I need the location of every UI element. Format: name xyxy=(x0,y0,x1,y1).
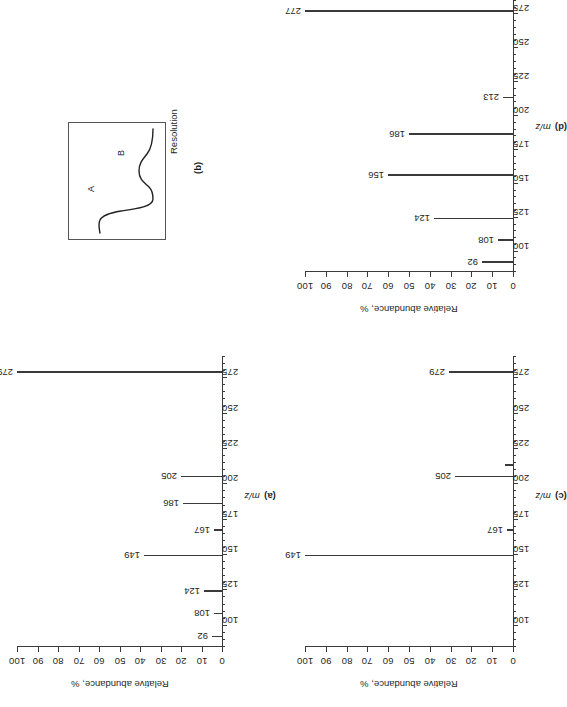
x-axis-tick-label: 150 xyxy=(513,544,529,555)
x-axis-minor-tick xyxy=(513,0,516,1)
peak-label: 205 xyxy=(161,471,177,482)
x-axis-minor-tick xyxy=(513,203,516,204)
y-axis-tick-label: 40 xyxy=(424,281,435,292)
y-axis-tick xyxy=(326,272,327,277)
y-axis-tick-label: 0 xyxy=(510,281,515,292)
spectrum-peak xyxy=(482,261,513,263)
x-axis-minor-tick xyxy=(513,74,516,75)
spectrum-peak xyxy=(183,503,222,505)
panel-caption: (a) xyxy=(264,491,276,502)
x-axis-tick-label: 175 xyxy=(513,139,529,150)
resolution-frame xyxy=(68,122,166,240)
x-axis-minor-tick xyxy=(513,490,516,491)
x-axis-tick-label: 225 xyxy=(513,438,529,449)
y-axis-tick xyxy=(451,647,452,652)
y-axis-tick xyxy=(58,647,59,652)
x-axis-tick-label: 100 xyxy=(513,615,529,626)
x-axis-minor-tick xyxy=(513,176,516,177)
y-axis-tick-label: 50 xyxy=(404,656,415,667)
y-axis-tick-label: 60 xyxy=(383,281,394,292)
y-axis-tick xyxy=(367,647,368,652)
y-axis-tick xyxy=(513,272,514,277)
x-axis-minor-tick xyxy=(222,618,225,619)
resolution-curve-b-label: B xyxy=(116,150,126,156)
y-axis-tick-label: 20 xyxy=(466,656,477,667)
peak-label: 156 xyxy=(368,169,384,180)
x-axis-title: m/z xyxy=(535,122,550,133)
x-axis-minor-tick xyxy=(513,455,516,456)
x-axis-minor-tick xyxy=(513,618,516,619)
x-axis-minor-tick xyxy=(513,469,516,470)
x-axis-tick-label: 225 xyxy=(513,71,529,82)
x-axis-minor-tick xyxy=(513,434,516,435)
y-axis-title: Relative abundance, % xyxy=(71,679,169,690)
x-axis-minor-tick xyxy=(222,632,225,633)
x-axis-minor-tick xyxy=(513,163,516,164)
spectrum-peak xyxy=(214,613,222,615)
x-axis-minor-tick xyxy=(513,611,516,612)
x-axis-minor-tick xyxy=(513,476,516,477)
x-axis-minor-tick xyxy=(513,190,516,191)
x-axis-minor-tick xyxy=(513,391,516,392)
spectrum-peak xyxy=(503,97,513,99)
x-axis-minor-tick xyxy=(513,568,516,569)
y-axis-tick xyxy=(140,647,141,652)
x-axis-tick-label: 175 xyxy=(222,509,238,520)
x-axis-title: m/z xyxy=(244,491,259,502)
x-axis-tick-label: 275 xyxy=(513,367,529,378)
peak-label: 124 xyxy=(184,585,200,596)
x-axis-minor-tick xyxy=(513,257,516,258)
x-axis-minor-tick xyxy=(222,398,225,399)
y-axis-tick xyxy=(202,647,203,652)
y-axis-tick xyxy=(326,647,327,652)
peak-label: 279 xyxy=(0,366,13,377)
x-axis-minor-tick xyxy=(513,582,516,583)
peak-label: 167 xyxy=(194,525,210,536)
spectrum-peak xyxy=(505,464,513,466)
x-axis-title: m/z xyxy=(535,491,550,502)
x-axis-minor-tick xyxy=(222,434,225,435)
panel-d-spectrum: 1001251501752002252502750102030405060708… xyxy=(285,0,557,332)
peak-label: 149 xyxy=(124,550,140,561)
spectrum-peak xyxy=(305,555,513,557)
x-axis-tick-label: 200 xyxy=(222,473,238,484)
x-axis-tick-label: 275 xyxy=(222,367,238,378)
x-axis-minor-tick xyxy=(222,476,225,477)
spectrum-peak xyxy=(17,371,222,373)
x-axis-minor-tick xyxy=(513,370,516,371)
panel-c-spectrum: 1001251501752002252502750102030405060708… xyxy=(285,340,557,707)
y-axis-tick-label: 40 xyxy=(424,656,435,667)
peak-label: 108 xyxy=(479,234,495,245)
y-axis-tick xyxy=(367,272,368,277)
x-axis-minor-tick xyxy=(222,469,225,470)
x-axis-minor-tick xyxy=(513,632,516,633)
x-axis-minor-tick xyxy=(222,512,225,513)
y-axis-tick xyxy=(409,272,410,277)
x-axis-minor-tick xyxy=(513,210,516,211)
y-axis-tick xyxy=(347,647,348,652)
peak-label: 167 xyxy=(487,525,503,536)
x-axis-minor-tick xyxy=(513,427,516,428)
y-axis-tick-label: 80 xyxy=(53,656,64,667)
peak-label: 149 xyxy=(285,550,301,561)
y-axis-tick-label: 10 xyxy=(487,281,498,292)
y-axis-tick xyxy=(471,647,472,652)
x-axis-tick-label: 125 xyxy=(513,207,529,218)
x-axis-minor-tick xyxy=(222,406,225,407)
peak-label: 186 xyxy=(389,129,405,140)
x-axis-minor-tick xyxy=(222,497,225,498)
y-axis-tick-label: 60 xyxy=(383,656,394,667)
y-axis-tick xyxy=(388,272,389,277)
x-axis-minor-tick xyxy=(513,142,516,143)
x-axis-minor-tick xyxy=(513,102,516,103)
y-axis-tick xyxy=(492,647,493,652)
y-axis-tick-label: 50 xyxy=(404,281,415,292)
y-axis-tick-label: 80 xyxy=(341,656,352,667)
x-axis-minor-tick xyxy=(513,129,516,130)
x-axis-minor-tick xyxy=(513,561,516,562)
y-axis-tick-label: 20 xyxy=(176,656,187,667)
x-axis-tick-label: 250 xyxy=(513,403,529,414)
y-axis-tick-label: 30 xyxy=(155,656,166,667)
y-axis-tick-label: 50 xyxy=(114,656,125,667)
y-axis-tick xyxy=(471,272,472,277)
